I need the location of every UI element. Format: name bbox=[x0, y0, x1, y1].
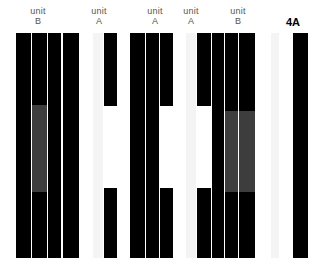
bar-segment-black bbox=[160, 188, 173, 258]
bar-segment-faint bbox=[271, 33, 279, 258]
bar-column bbox=[293, 33, 308, 258]
bar-segment-black bbox=[197, 33, 211, 106]
bar-segment-white bbox=[197, 106, 211, 188]
bar-segment-black bbox=[197, 188, 211, 258]
bar-column bbox=[225, 33, 238, 258]
bar-segment-black bbox=[146, 33, 159, 258]
bar-plot-area bbox=[0, 33, 317, 258]
bar-segment-gray bbox=[225, 111, 238, 192]
bar-segment-black bbox=[212, 33, 224, 258]
bar-column bbox=[32, 33, 47, 258]
unit-bar-diagram: unitBunitAunitAunitAunitB 4A bbox=[0, 0, 317, 277]
bar-segment-white bbox=[280, 33, 292, 258]
bar-column bbox=[63, 33, 79, 258]
bar-column bbox=[239, 33, 255, 258]
bar-segment-black bbox=[48, 33, 61, 258]
bar-column bbox=[186, 33, 196, 258]
bar-column bbox=[271, 33, 279, 258]
panel-label: 4A bbox=[286, 16, 300, 28]
unit-group-label-line1: unit bbox=[69, 6, 129, 16]
bar-segment-black bbox=[16, 33, 31, 258]
bar-column bbox=[130, 33, 145, 258]
unit-group-label-line1: unit bbox=[208, 6, 268, 16]
unit-group-label-line2: B bbox=[8, 16, 68, 26]
unit-group-label: unitB bbox=[8, 6, 68, 26]
bar-segment-faint bbox=[93, 33, 103, 258]
bar-column bbox=[118, 33, 129, 258]
bar-segment-black bbox=[104, 33, 117, 106]
bar-column bbox=[48, 33, 61, 258]
unit-group-label-line2: B bbox=[208, 16, 268, 26]
bar-segment-black bbox=[239, 192, 255, 258]
bar-segment-black bbox=[32, 33, 47, 105]
bar-column bbox=[80, 33, 92, 258]
bar-segment-black bbox=[225, 192, 238, 258]
bar-segment-white bbox=[104, 106, 117, 188]
bar-column bbox=[174, 33, 185, 258]
bar-column bbox=[197, 33, 211, 258]
bar-segment-black bbox=[63, 33, 79, 258]
bar-segment-white bbox=[160, 106, 173, 188]
bar-column bbox=[160, 33, 173, 258]
bar-segment-black bbox=[160, 33, 173, 106]
bar-segment-gray bbox=[32, 105, 47, 192]
bar-column bbox=[93, 33, 103, 258]
bar-segment-faint bbox=[186, 33, 196, 258]
bar-segment-gray bbox=[239, 111, 255, 192]
unit-group-label-line1: unit bbox=[8, 6, 68, 16]
bar-segment-black bbox=[225, 33, 238, 111]
bar-column bbox=[280, 33, 292, 258]
bar-segment-black bbox=[130, 33, 145, 258]
bar-segment-white bbox=[80, 33, 92, 258]
bar-segment-white bbox=[256, 33, 270, 258]
header-label-row: unitBunitAunitAunitAunitB bbox=[0, 0, 317, 33]
unit-group-label: unitB bbox=[208, 6, 268, 26]
bar-segment-white bbox=[174, 33, 185, 258]
bar-column bbox=[146, 33, 159, 258]
unit-group-label: unitA bbox=[69, 6, 129, 26]
bar-column bbox=[212, 33, 224, 258]
bar-segment-black bbox=[32, 192, 47, 258]
bar-segment-black bbox=[239, 33, 255, 111]
bar-column bbox=[256, 33, 270, 258]
bar-segment-white bbox=[118, 33, 129, 258]
bar-column bbox=[16, 33, 31, 258]
bar-column bbox=[104, 33, 117, 258]
bar-segment-black bbox=[293, 33, 308, 258]
bar-segment-black bbox=[104, 188, 117, 258]
unit-group-label-line2: A bbox=[69, 16, 129, 26]
